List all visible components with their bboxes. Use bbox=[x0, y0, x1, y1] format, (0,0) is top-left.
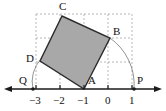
point-label-P: P bbox=[137, 75, 143, 86]
point-dot-Q bbox=[31, 87, 35, 91]
point-label-D: D bbox=[26, 53, 34, 64]
tick-label-1: 1 bbox=[129, 95, 135, 106]
axis-arrow-right bbox=[154, 86, 162, 92]
tick-label-0: 0 bbox=[105, 95, 111, 106]
point-dot-P bbox=[132, 87, 136, 91]
point-label-A: A bbox=[88, 75, 96, 86]
figure-canvas: −3 −2 −1 0 1 A B C D P Q bbox=[0, 0, 166, 111]
point-label-Q: Q bbox=[19, 75, 27, 86]
tick-label-minus2: −2 bbox=[53, 95, 65, 106]
shaded-square-ABCD bbox=[40, 16, 110, 89]
tick-label-minus1: −1 bbox=[77, 95, 89, 106]
tick-label-minus3: −3 bbox=[29, 95, 41, 106]
point-label-C: C bbox=[59, 1, 66, 12]
axis-arrow-left bbox=[4, 86, 12, 92]
point-label-B: B bbox=[113, 26, 120, 37]
arc-B-to-P bbox=[110, 38, 134, 89]
